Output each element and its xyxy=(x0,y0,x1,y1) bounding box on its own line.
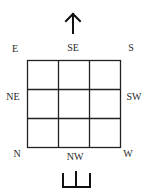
up-arrow-icon xyxy=(66,14,80,33)
label-bottom-left: N xyxy=(13,149,20,159)
label-bottom-center: NW xyxy=(67,152,84,162)
bracket-shape-icon xyxy=(63,172,90,187)
label-middle-left: NE xyxy=(6,92,19,102)
label-top-left: E xyxy=(12,44,18,54)
label-top-right: S xyxy=(128,43,134,53)
label-top-center: SE xyxy=(67,43,79,53)
label-bottom-right: W xyxy=(123,149,132,159)
label-middle-right: SW xyxy=(127,92,142,102)
grid-3x3 xyxy=(28,61,121,148)
